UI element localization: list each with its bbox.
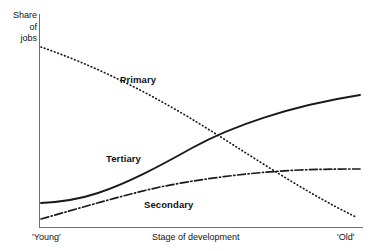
x-axis-start-label: 'Young' (32, 232, 61, 243)
series-label-tertiary: Tertiary (106, 153, 141, 164)
series-line-tertiary (41, 95, 360, 203)
x-axis-title: Stage of development (152, 232, 240, 243)
chart-plot-area (0, 0, 371, 251)
y-axis-title-line-3: jobs (0, 33, 37, 45)
y-axis-title-line-1: Share (0, 10, 37, 22)
y-axis-title: Share of jobs (0, 10, 37, 45)
x-axis-end-label: 'Old' (337, 232, 354, 243)
y-axis-title-line-2: of (0, 22, 37, 34)
series-label-primary: Primary (120, 74, 156, 85)
chart-figure: Share of jobs Primary Tertiary Secondary… (0, 0, 371, 251)
series-line-primary (41, 47, 356, 217)
series-label-secondary: Secondary (144, 199, 193, 210)
